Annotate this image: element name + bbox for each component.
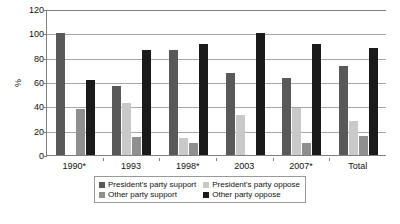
bar	[169, 50, 178, 155]
x-tick-label: 1993	[121, 162, 141, 171]
bar	[302, 143, 311, 155]
y-tick-label: 20	[20, 127, 44, 136]
y-tick-label: 60	[20, 79, 44, 88]
x-tickmark	[159, 158, 160, 161]
legend-entry[interactable]: Other party support	[99, 190, 197, 199]
y-tick-label: 120	[20, 6, 44, 15]
bar	[142, 50, 151, 155]
bar	[256, 33, 265, 155]
bar	[56, 33, 65, 155]
legend-entry[interactable]: President's party oppose	[203, 180, 301, 189]
legend-label: Other party support	[108, 190, 177, 199]
legend-swatch-icon	[203, 192, 209, 198]
bar	[112, 86, 121, 155]
bar-group	[217, 10, 274, 155]
y-tickmark	[44, 132, 47, 133]
bar	[76, 109, 85, 155]
legend-entry[interactable]: President's party support	[99, 180, 197, 189]
bar	[369, 48, 378, 155]
legend-swatch-icon	[203, 182, 209, 188]
y-tickmark	[44, 10, 47, 11]
bars-layer	[47, 10, 386, 155]
y-tick-label: 80	[20, 54, 44, 63]
x-tickmark	[329, 158, 330, 161]
bar-group	[104, 10, 161, 155]
bar	[199, 44, 208, 155]
y-tickmark	[44, 107, 47, 108]
bar-group	[274, 10, 331, 155]
y-tick-label: 100	[20, 30, 44, 39]
bar	[292, 108, 301, 155]
x-tick-label: 1998*	[176, 162, 200, 171]
x-tickmark	[273, 158, 274, 161]
bar	[132, 137, 141, 155]
legend-swatch-icon	[99, 192, 105, 198]
x-axis-tick-labels: 1990*19931998*20032007*Total	[46, 158, 386, 171]
x-tick-label: 2007*	[289, 162, 313, 171]
legend-label: President's party oppose	[212, 180, 300, 189]
bar-group	[330, 10, 387, 155]
bar	[312, 44, 321, 155]
legend-entry[interactable]: Other party oppose	[203, 190, 301, 199]
bar	[359, 136, 368, 155]
chart-legend: President's party supportPresident's par…	[94, 176, 306, 203]
legend-label: Other party oppose	[212, 190, 280, 199]
x-tick-label: Total	[348, 162, 367, 171]
bar-group	[160, 10, 217, 155]
bar	[189, 143, 198, 155]
bar	[349, 121, 358, 155]
bar	[122, 103, 131, 155]
y-tickmark	[44, 34, 47, 35]
bar	[236, 115, 245, 155]
x-tickmark	[103, 158, 104, 161]
x-tick-label: 2003	[234, 162, 254, 171]
x-tickmark	[216, 158, 217, 161]
bar	[282, 78, 291, 155]
bar	[339, 66, 348, 155]
y-axis-tick-labels: 020406080100120	[20, 10, 44, 156]
bar	[179, 138, 188, 155]
y-tick-label: 0	[20, 152, 44, 161]
bar	[226, 73, 235, 155]
plot-area	[46, 10, 386, 156]
y-tickmark	[44, 59, 47, 60]
y-tick-label: 40	[20, 103, 44, 112]
bar	[86, 80, 95, 155]
x-tick-label: 1990*	[63, 162, 87, 171]
legend-swatch-icon	[99, 182, 105, 188]
y-tickmark	[44, 83, 47, 84]
bar-group	[47, 10, 104, 155]
bar-chart: % 020406080100120 1990*19931998*20032007…	[0, 0, 400, 224]
y-tickmark	[44, 156, 47, 157]
legend-label: President's party support	[108, 180, 196, 189]
